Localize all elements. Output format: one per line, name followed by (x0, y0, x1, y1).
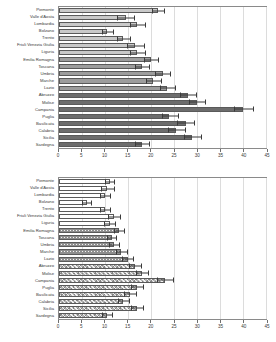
bar-row (59, 257, 266, 262)
x-axis-tick (243, 149, 244, 152)
error-bar (145, 59, 159, 60)
bar-sardegna (59, 142, 142, 147)
error-bar (117, 38, 130, 39)
y-axis-label: Molise (42, 100, 54, 104)
error-bar-cap (164, 8, 165, 13)
x-axis-tick-label: 0 (57, 324, 60, 329)
error-bar (135, 144, 149, 145)
error-bar (136, 273, 148, 274)
error-bar-cap (180, 93, 181, 98)
error-bar (128, 45, 145, 46)
y-axis-label: Bolzano (39, 200, 54, 204)
bar-row (59, 71, 266, 76)
x-axis-tick (127, 320, 128, 323)
y-axis-label: Lombardia (34, 22, 54, 26)
error-bar-cap (102, 313, 103, 318)
error-bar-cap (185, 128, 186, 133)
bar-row (59, 271, 266, 276)
error-bar-cap (127, 250, 128, 255)
bar-row (59, 200, 266, 205)
x-axis-tick (81, 320, 82, 323)
bar-row (59, 249, 266, 254)
bar-toscana (59, 235, 112, 240)
bar-row (59, 64, 266, 69)
x-axis-tick (81, 149, 82, 152)
bar-row (59, 299, 266, 304)
bar-row (59, 50, 266, 55)
bar-emilia-romagna (59, 228, 119, 233)
error-bar-cap (184, 135, 185, 140)
y-axis-label: Trento (42, 36, 54, 40)
bar-liguria (59, 50, 137, 55)
error-bar-cap (143, 306, 144, 311)
x-axis-tick-label: 30 (195, 153, 200, 158)
bar-friuli-venezia-giulia (59, 214, 114, 219)
bar-row (59, 128, 266, 133)
bar-lombardia (59, 22, 137, 27)
bar-abruzzo (59, 93, 188, 98)
y-axis-label: Lazio (44, 86, 54, 90)
x-axis-tick-label: 25 (172, 153, 177, 158)
x-axis-bottom: 051015202530354045 (58, 320, 267, 342)
y-axis-label: Lombardia (34, 193, 54, 197)
y-axis-label: Marche (40, 250, 54, 254)
bar-piemonte (59, 179, 110, 184)
bar-row (59, 15, 266, 20)
bar-emilia-romagna (59, 57, 151, 62)
x-axis-tick (127, 149, 128, 152)
x-axis-tick-label: 45 (264, 324, 269, 329)
bar-row (59, 228, 266, 233)
error-bar (131, 24, 146, 25)
chart-panel-top: PiemonteValle d'AostaLombardiaBolzanoTre… (0, 0, 276, 171)
x-axis-tick-label: 35 (218, 153, 223, 158)
bar-lazio (59, 86, 167, 91)
bar-row (59, 93, 266, 98)
y-axis-label: Bolzano (39, 29, 54, 33)
y-axis-label: Piemonte (36, 178, 54, 182)
error-bar-cap (104, 221, 105, 226)
error-bar-cap (110, 193, 111, 198)
plot-area-top (58, 6, 267, 149)
bar-calabria (59, 128, 176, 133)
bar-molise (59, 100, 197, 105)
error-bar-cap (131, 306, 132, 311)
error-bar (234, 109, 253, 110)
error-bar (180, 95, 196, 96)
y-axis-label: Liguria (41, 221, 54, 225)
error-bar-cap (145, 22, 146, 27)
plot-area-bottom (58, 177, 267, 320)
x-axis-tick (243, 320, 244, 323)
x-axis-tick (220, 149, 221, 152)
bar-campania (59, 107, 243, 112)
y-axis-label: Campania (35, 279, 54, 283)
error-bar-cap (253, 107, 254, 112)
error-bar (132, 308, 144, 309)
bar-umbria (59, 242, 114, 247)
x-axis-tick (197, 320, 198, 323)
error-bar-cap (145, 50, 146, 55)
error-bar (130, 52, 145, 53)
error-bar-cap (100, 193, 101, 198)
x-axis-tick-label: 45 (264, 153, 269, 158)
y-axis-label: Friuli Venezia Giulia (17, 214, 54, 218)
x-axis-tick-label: 20 (148, 324, 153, 329)
bar-row (59, 114, 266, 119)
error-bar-cap (160, 86, 161, 91)
error-bar-cap (194, 121, 195, 126)
bar-puglia (59, 285, 137, 290)
x-axis-tick (104, 320, 105, 323)
y-axis-label: Valle d'Aosta (30, 15, 54, 19)
bar-row (59, 221, 266, 226)
y-axis-labels-bottom: PiemonteValle d'AostaLombardiaBolzanoTre… (0, 177, 56, 320)
bar-molise (59, 271, 142, 276)
bar-trento (59, 36, 123, 41)
x-axis-tick (150, 149, 151, 152)
y-axis-label: Calabria (38, 129, 54, 133)
bar-row (59, 278, 266, 283)
bar-rows-bottom (59, 178, 266, 319)
error-bar (185, 137, 202, 138)
error-bar-cap (158, 57, 159, 62)
error-bar-cap (149, 64, 150, 69)
x-axis-tick (267, 149, 268, 152)
error-bar-cap (114, 186, 115, 191)
